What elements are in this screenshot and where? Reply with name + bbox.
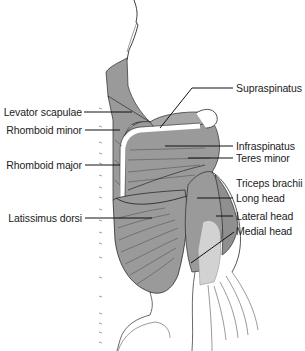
spinous-processes [99,108,102,343]
label-medial-head: Medial head [236,225,292,237]
anatomy-diagram [0,0,305,351]
label-long-head: Long head [236,192,285,204]
label-triceps-brachii: Triceps brachii [236,177,302,189]
label-levator-scapulae: Levator scapulae [2,106,82,118]
latissimus-dorsi-muscle [113,190,187,293]
neck-outline [127,0,138,60]
neck-inner-outline [127,22,137,52]
label-rhomboid-minor: Rhomboid minor [2,124,82,136]
elbow-tendons [208,272,258,351]
iliac-contour-2 [118,322,170,351]
label-infraspinatus: Infraspinatus [236,140,295,152]
torso-lower-contour [192,272,195,351]
label-teres-minor: Teres minor [236,152,290,164]
label-latissimus-dorsi: Latissimus dorsi [2,212,82,224]
label-supraspinatus: Supraspinatus [236,82,302,94]
label-rhomboid-major: Rhomboid major [2,159,82,171]
triceps-medial-head [198,220,221,285]
label-lateral-head: Lateral head [236,210,293,222]
